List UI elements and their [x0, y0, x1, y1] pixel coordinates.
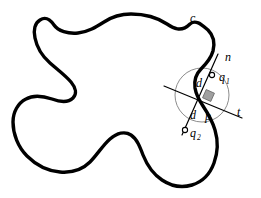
point-marker-q1 [209, 72, 214, 77]
point-label-q2-group: q 2 [190, 126, 201, 142]
point-marker-q2 [182, 127, 187, 132]
closed-curve-c [13, 14, 217, 186]
normal-label-n: n [225, 50, 231, 64]
point-label-q1-subscript: 1 [226, 77, 230, 86]
dist-label-d-lower: d [190, 108, 197, 122]
point-label-q1-group: q 1 [219, 70, 230, 86]
point-label-q2: q [190, 126, 196, 140]
point-label-q1: q [219, 70, 225, 84]
point-label-p: p [204, 109, 211, 123]
curve-label-c: c [190, 11, 196, 25]
geometry-diagram: c n q 1 d t d p q 2 [0, 0, 261, 198]
dist-label-d-upper: d [196, 76, 203, 90]
point-label-q2-subscript: 2 [197, 133, 201, 142]
right-angle-marker [203, 90, 215, 102]
figure-canvas: c n q 1 d t d p q 2 [0, 0, 261, 198]
